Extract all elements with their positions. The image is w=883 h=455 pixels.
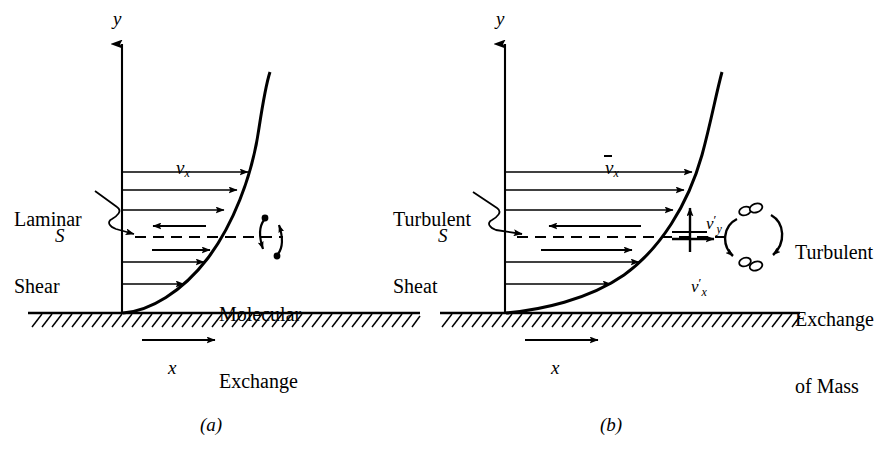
velocity-label-a: vx — [168, 139, 190, 181]
panel-caption-b: (b) — [600, 414, 622, 435]
fluct-x-label: v′x — [683, 258, 707, 299]
molecular-exchange-line1: Molecular — [219, 303, 301, 325]
mean-velocity-label-b: vx — [597, 139, 619, 181]
laminar-shear-callout-arrow — [95, 191, 134, 234]
turbulent-eddy-symbol — [725, 202, 782, 272]
velocity-subscript-a: x — [184, 166, 189, 180]
turbulent-shear-callout-arrow — [473, 192, 522, 234]
wall-hatching-b — [442, 314, 800, 327]
fluct-x-subscript: x — [701, 285, 706, 299]
molecular-exchange-line2: Exchange — [219, 370, 301, 392]
turbulent-exchange-label: Turbulent Exchange of Mass — [795, 196, 874, 420]
molecular-exchange-label: Molecular Exchange — [219, 258, 301, 415]
laminar-shear-line1: Laminar — [14, 208, 82, 230]
turbulent-exchange-line2: Exchange — [795, 308, 874, 330]
x-axis-label-b: x — [543, 339, 559, 378]
laminar-shear-callout: Laminar Shear — [14, 163, 82, 320]
fluct-y-subscript: y — [716, 222, 721, 236]
x-axis-label-text-b: x — [551, 357, 559, 378]
turbulent-exchange-line1: Turbulent — [795, 241, 874, 263]
x-axis-label-text-a: x — [168, 357, 176, 378]
mean-velocity-subscript-b: x — [613, 166, 618, 180]
panel-caption-a: (a) — [200, 414, 222, 435]
panel-b — [440, 44, 800, 340]
turbulent-shear-callout: Turbulent Sheat — [393, 163, 471, 320]
y-axis-label-b: y — [496, 8, 504, 29]
fluct-y-label: v′y — [698, 195, 722, 236]
x-axis-label-a: x — [160, 339, 176, 378]
velocity-arrows-b — [506, 172, 692, 284]
turbulent-shear-line1: Turbulent — [393, 208, 471, 230]
y-axis-label-a: y — [113, 8, 121, 29]
fluct-y-symbol: v — [706, 214, 714, 233]
fluct-x-symbol: v — [691, 277, 699, 296]
turbulent-shear-line2: Sheat — [393, 275, 471, 297]
laminar-shear-line2: Shear — [14, 275, 82, 297]
mean-velocity-symbol-b: v — [605, 157, 613, 178]
turbulent-exchange-line3: of Mass — [795, 375, 874, 397]
